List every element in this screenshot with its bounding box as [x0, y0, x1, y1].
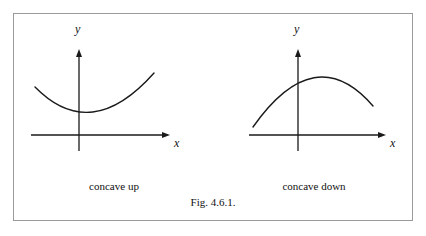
y-axis-concave-up [76, 49, 82, 151]
concave-down-curve [253, 77, 373, 127]
y-axis-label-concave-down: y [294, 23, 299, 35]
panel-caption-concave-down: concave down [214, 180, 414, 192]
x-axis-label-concave-down: x [390, 137, 395, 149]
panel-concave-down: x y concave down [214, 14, 414, 222]
figure-frame-border: x y concave up x y c [13, 13, 413, 221]
panel-caption-concave-up: concave up [14, 180, 214, 192]
figure-container: x y concave up x y c [0, 0, 426, 236]
y-axis-label-concave-up: y [75, 23, 80, 35]
concave-up-curve [35, 73, 154, 112]
x-axis-concave-down [249, 132, 386, 138]
figure-caption: Fig. 4.6.1. [13, 196, 413, 208]
y-axis-concave-down [295, 49, 301, 151]
x-axis-concave-up [31, 132, 170, 138]
x-axis-label-concave-up: x [174, 137, 179, 149]
panel-concave-up: x y concave up [14, 14, 214, 222]
